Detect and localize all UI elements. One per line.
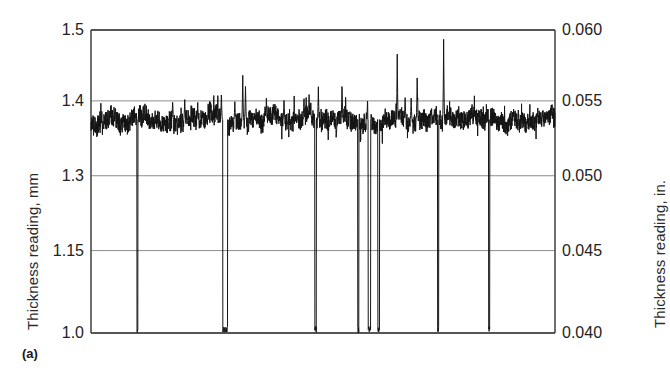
figure-caption: (a) <box>22 346 38 361</box>
ytick-right-4: 0.040 <box>562 325 602 341</box>
ytick-left-0: 1.5 <box>40 22 84 38</box>
ytick-right-3: 0.045 <box>562 243 602 259</box>
gridlines <box>91 30 555 333</box>
plot-frame <box>91 30 555 333</box>
thickness-chart-figure: 1.5 1.4 1.3 1.15 1.0 0.060 0.055 0.050 0… <box>0 0 670 390</box>
thickness-trace <box>91 39 555 332</box>
ytick-right-1: 0.055 <box>562 93 602 109</box>
ytick-right-0: 0.060 <box>562 22 602 38</box>
y-axis-title-right: Thickness reading, in. <box>651 180 668 328</box>
ytick-left-2: 1.3 <box>40 168 84 184</box>
y-axis-title-left: Thickness reading, mm <box>24 173 41 330</box>
ytick-left-1: 1.4 <box>40 93 84 109</box>
ytick-right-2: 0.050 <box>562 168 602 184</box>
ytick-left-4: 1.0 <box>40 325 84 341</box>
